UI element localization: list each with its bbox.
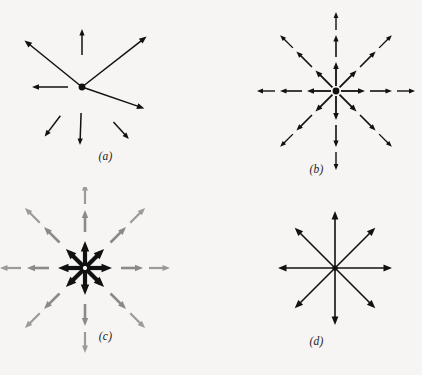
arrow-dir270-rank1 bbox=[332, 268, 339, 325]
arrow-shaft bbox=[335, 231, 372, 268]
figure-sheet: (a) (b) (c) (d) bbox=[0, 0, 422, 375]
arrow-dir45-rank1 bbox=[335, 228, 375, 268]
arrow-head bbox=[102, 264, 113, 272]
arrow-dir90-rank3 bbox=[82, 187, 88, 204]
arrow-head bbox=[81, 285, 89, 296]
arrow-dir45-rank2 bbox=[110, 227, 126, 243]
arrow-head bbox=[409, 89, 415, 94]
arrow-head bbox=[78, 138, 83, 145]
arrow-head bbox=[82, 210, 88, 218]
arrow-head bbox=[82, 318, 88, 326]
arrow-upper-left-long bbox=[24, 40, 82, 87]
arrow-dir180-rank1 bbox=[307, 88, 331, 94]
arrow-head bbox=[358, 88, 365, 94]
arrow-head bbox=[58, 264, 69, 272]
arrow-head bbox=[332, 317, 339, 326]
arrow-lower-right-long bbox=[82, 87, 144, 109]
arrow-dir90-rank1 bbox=[332, 211, 339, 268]
arrow-dir225-rank3 bbox=[25, 313, 40, 328]
arrow-dir270-rank2 bbox=[82, 304, 88, 326]
arrow-left-medium bbox=[32, 84, 68, 90]
arrow-head bbox=[280, 88, 287, 93]
panel-c-label: (c) bbox=[0, 330, 211, 342]
panel-b-label: (b) bbox=[211, 163, 422, 175]
arrow-shaft bbox=[47, 116, 60, 134]
arrow-head bbox=[79, 29, 84, 36]
arrow-dir270-rank1 bbox=[333, 96, 339, 120]
arrow-dir180-rank3 bbox=[0, 265, 21, 271]
arrow-dir135-rank3 bbox=[25, 208, 40, 223]
arrow-dir315-rank1 bbox=[335, 268, 375, 308]
arrow-dir45-rank3 bbox=[130, 208, 145, 223]
arrow-dir0-rank3 bbox=[149, 265, 170, 271]
arrow-dir90-rank2 bbox=[82, 210, 88, 232]
arrow-head bbox=[332, 211, 339, 220]
arrow-head bbox=[333, 113, 339, 120]
arrow-up-short bbox=[79, 29, 84, 55]
arrow-head bbox=[307, 88, 314, 94]
arrow-dir0-rank3 bbox=[397, 89, 415, 94]
arrow-head bbox=[32, 84, 39, 90]
arrow-dir225-rank1 bbox=[66, 269, 84, 287]
arrow-dir225-rank1 bbox=[295, 268, 335, 308]
arrow-shaft bbox=[80, 113, 81, 141]
panel-b: (b) bbox=[211, 0, 422, 188]
panel-c-vector-diagram bbox=[0, 187, 211, 375]
center-dot bbox=[79, 84, 86, 91]
arrow-head bbox=[81, 241, 89, 252]
arrow-dir0-rank1 bbox=[335, 265, 392, 272]
arrow-dir135-rank3 bbox=[280, 35, 293, 48]
arrow-upper-right-long bbox=[82, 37, 147, 87]
arrow-lower-left-short bbox=[45, 116, 61, 137]
arrow-head bbox=[82, 346, 88, 354]
arrow-dir135-rank2 bbox=[44, 227, 60, 243]
arrow-head bbox=[334, 12, 339, 18]
arrow-dir315-rank1 bbox=[86, 269, 104, 287]
arrow-dir45-rank3 bbox=[379, 35, 392, 48]
arrow-head bbox=[135, 265, 143, 271]
arrow-head bbox=[333, 35, 338, 42]
arrow-shaft bbox=[82, 39, 143, 87]
arrow-dir225-rank3 bbox=[280, 134, 293, 147]
arrow-dir180-rank1 bbox=[278, 265, 335, 272]
arrow-dir315-rank2 bbox=[110, 293, 126, 309]
panel-b-vector-diagram bbox=[211, 0, 422, 188]
arrow-dir180-rank3 bbox=[257, 89, 275, 94]
center-dot bbox=[333, 88, 340, 95]
arrow-lower-right-short bbox=[113, 122, 128, 139]
panel-a: (a) bbox=[0, 0, 211, 188]
arrow-dir0-rank1 bbox=[341, 88, 365, 94]
arrow-shaft bbox=[28, 43, 82, 87]
arrow-head bbox=[0, 265, 8, 271]
arrow-head bbox=[27, 265, 35, 271]
arrow-head bbox=[257, 89, 263, 94]
panel-d: (d) bbox=[211, 187, 422, 375]
arrow-head bbox=[163, 265, 171, 271]
arrow-dir315-rank3 bbox=[379, 134, 392, 147]
arrow-dir135-rank2 bbox=[296, 51, 312, 67]
panel-a-label: (a) bbox=[0, 150, 211, 162]
arrow-shaft bbox=[335, 268, 372, 305]
arrow-head bbox=[384, 265, 393, 272]
arrow-head bbox=[333, 141, 338, 148]
arrow-head bbox=[136, 103, 144, 109]
arrow-head bbox=[82, 187, 88, 191]
arrow-head bbox=[333, 62, 339, 69]
arrow-shaft bbox=[82, 87, 141, 107]
panel-d-label: (d) bbox=[211, 335, 422, 347]
arrow-dir135-rank1 bbox=[66, 249, 84, 267]
arrow-down-short bbox=[78, 113, 83, 145]
arrow-dir225-rank2 bbox=[296, 115, 312, 131]
arrow-dir225-rank1 bbox=[315, 95, 332, 112]
arrow-shaft bbox=[298, 231, 335, 268]
arrow-shaft bbox=[298, 268, 335, 305]
arrow-dir45-rank1 bbox=[340, 70, 357, 87]
arrow-dir315-rank2 bbox=[360, 115, 376, 131]
arrow-dir90-rank2 bbox=[333, 35, 338, 57]
arrow-dir180-rank2 bbox=[27, 265, 49, 271]
center-dot bbox=[332, 265, 337, 270]
arrow-dir315-rank3 bbox=[130, 313, 145, 328]
arrow-dir0-rank2 bbox=[370, 88, 392, 93]
panel-c: (c) bbox=[0, 187, 211, 375]
arrow-dir90-rank1 bbox=[333, 62, 339, 86]
